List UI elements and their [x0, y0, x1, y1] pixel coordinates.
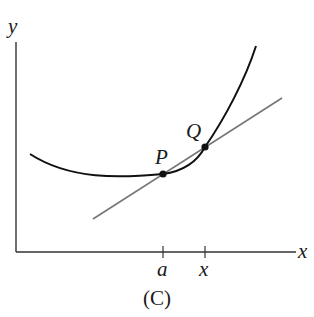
point-q-marker — [201, 143, 208, 150]
y-axis-label: y — [6, 14, 18, 38]
point-q-label: Q — [186, 119, 201, 143]
function-curve — [30, 46, 256, 176]
point-p-label: P — [154, 145, 168, 169]
tick-a-label: a — [157, 257, 168, 281]
figure-caption: (C) — [143, 286, 171, 310]
secant-line-diagram: y x P Q a x (C) — [0, 0, 314, 317]
x-axis-label: x — [297, 239, 308, 263]
secant-line — [93, 98, 282, 219]
tick-x-label: x — [198, 257, 209, 281]
point-p-marker — [159, 170, 166, 177]
